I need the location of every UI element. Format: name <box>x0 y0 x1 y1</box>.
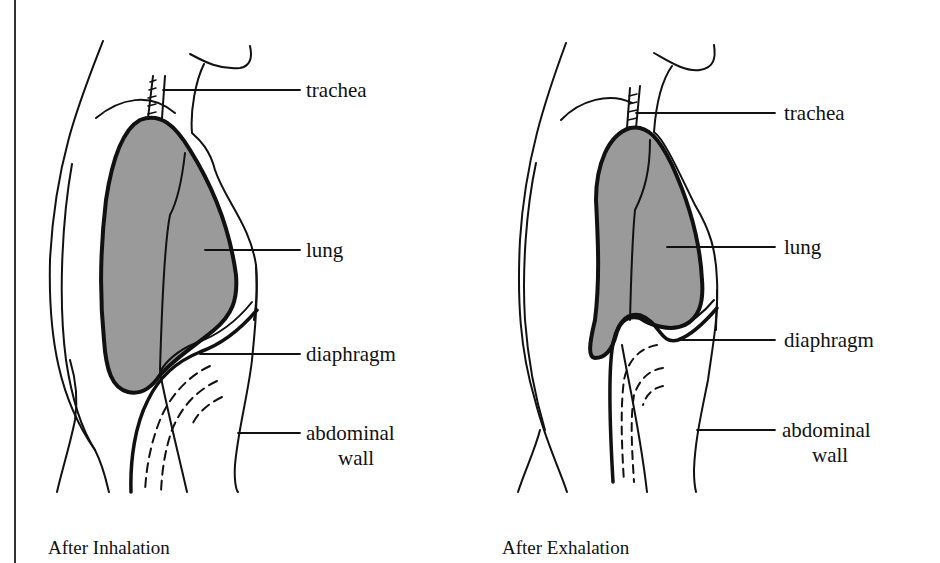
label-diaphragm-inhalation: diaphragm <box>306 343 396 365</box>
label-trachea-exhalation: trachea <box>784 102 845 124</box>
label-lung-exhalation: lung <box>784 236 821 258</box>
label-lung-inhalation: lung <box>306 239 343 261</box>
panel-inhalation-illustration <box>50 41 300 492</box>
breathing-diagram <box>0 0 940 563</box>
label-abdominal-inhalation: abdominal <box>306 422 395 444</box>
label-wall-exhalation: wall <box>812 444 848 466</box>
label-abdominal-exhalation: abdominal <box>782 419 871 441</box>
panel-exhalation-illustration <box>518 43 775 492</box>
caption-after-exhalation: After Exhalation <box>502 538 629 558</box>
label-diaphragm-exhalation: diaphragm <box>784 329 874 351</box>
label-wall-inhalation: wall <box>338 447 374 469</box>
caption-after-inhalation: After Inhalation <box>48 538 170 558</box>
label-trachea-inhalation: trachea <box>306 79 367 101</box>
